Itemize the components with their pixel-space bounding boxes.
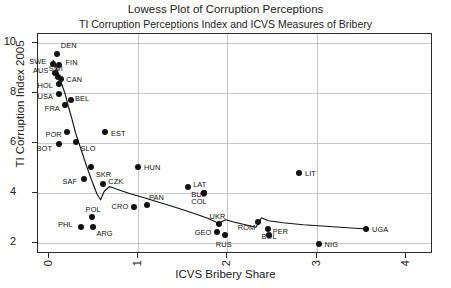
data-point [78, 224, 84, 230]
data-point-label: DEN [61, 41, 77, 50]
data-point-label: USA [37, 92, 53, 101]
chart-subtitle: TI Corruption Perceptions Index and ICVS… [0, 18, 451, 30]
data-point-label: SWI [49, 64, 63, 73]
data-point [73, 139, 79, 145]
y-tick-label: 10 [0, 35, 16, 47]
data-point-label: SWE [29, 57, 46, 66]
data-point [68, 97, 74, 103]
x-tick-label: 4 [399, 260, 411, 266]
plot-area: DENSWEFINAUSCANSWIHOLUSABELFRAPORESTBOTS… [37, 33, 432, 253]
data-point [135, 164, 141, 170]
data-point-label: CAN [66, 75, 82, 84]
x-tick-mark [137, 253, 138, 258]
x-tick-label: 3 [310, 260, 322, 266]
data-point-label: BOL [262, 232, 277, 241]
data-point-label: NIG [325, 240, 338, 249]
data-point [56, 141, 62, 147]
data-point-label: POL [86, 205, 101, 214]
y-tick-label: 4 [0, 185, 16, 197]
data-point [64, 129, 70, 135]
data-point-label: GEO [195, 228, 212, 237]
x-tick-label: 0 [42, 260, 54, 266]
x-tick-mark [405, 253, 406, 258]
y-tick-label: 2 [0, 235, 16, 247]
data-point [81, 176, 87, 182]
data-point [56, 81, 62, 87]
data-point [296, 170, 302, 176]
data-point-label: EST [111, 129, 126, 138]
data-point [265, 226, 271, 232]
data-point-label: HOL [38, 81, 54, 90]
data-point-label: SAF [62, 177, 77, 186]
data-point-label: UKR [210, 212, 226, 221]
x-axis-label: ICVS Bribery Share [0, 268, 451, 280]
y-gridline [38, 143, 431, 144]
data-point-label: BEL [75, 94, 89, 103]
x-tick-mark [316, 253, 317, 258]
data-point-label: BOT [37, 144, 53, 153]
data-point [214, 229, 220, 235]
y-gridline [38, 43, 431, 44]
data-point [56, 91, 62, 97]
data-point-label: ROM [238, 223, 256, 232]
x-tick-mark [48, 253, 49, 258]
x-tick-mark [226, 253, 227, 258]
data-point [88, 164, 94, 170]
data-point-label: FIN [65, 58, 77, 67]
data-point-label: LAT [193, 180, 206, 189]
data-point [201, 190, 207, 196]
y-gridline [38, 93, 431, 94]
data-point-label: SLO [81, 144, 96, 153]
data-point [55, 74, 61, 80]
data-point [54, 51, 60, 57]
data-point-label: LIT [305, 169, 316, 178]
lowess-curve [38, 34, 433, 254]
x-tick-label: 1 [131, 260, 143, 266]
data-point [185, 184, 191, 190]
data-point [316, 241, 322, 247]
data-point [62, 102, 68, 108]
data-point [363, 226, 369, 232]
data-point-label: COL [191, 197, 207, 206]
data-point [131, 204, 137, 210]
data-point-label: PAN [149, 193, 164, 202]
data-point-label: RUS [216, 240, 232, 249]
y-tick-label: 8 [0, 85, 16, 97]
x-tick-label: 2 [220, 260, 232, 266]
data-point-label: CZK [108, 177, 123, 186]
chart-title: Lowess Plot of Corruption Perceptions [0, 3, 451, 15]
data-point-label: FRA [45, 104, 60, 113]
data-point [144, 202, 150, 208]
data-point-label: CRO [112, 202, 129, 211]
data-point [102, 129, 108, 135]
data-point-label: AUS [33, 66, 49, 75]
data-point [255, 219, 261, 225]
chart-root: Lowess Plot of Corruption Perceptions TI… [0, 0, 451, 288]
data-point [100, 181, 106, 187]
data-point-label: PHL [58, 220, 73, 229]
data-point [89, 214, 95, 220]
data-point [216, 221, 222, 227]
data-point-label: UGA [372, 225, 388, 234]
y-tick-label: 6 [0, 135, 16, 147]
y-gridline [38, 243, 431, 244]
data-point-label: ARG [96, 229, 112, 238]
data-point-label: HUN [144, 163, 160, 172]
data-point-label: POR [45, 130, 61, 139]
y-gridline [38, 193, 431, 194]
data-point [222, 232, 228, 238]
